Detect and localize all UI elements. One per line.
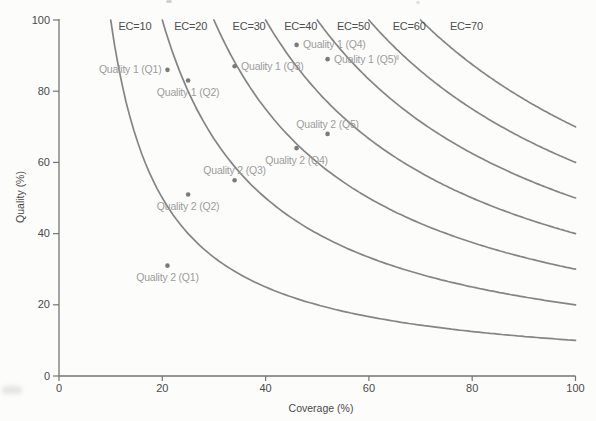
data-point — [165, 68, 170, 73]
ec-curve — [369, 20, 576, 162]
data-point-label: Quality 1 (Q2) — [157, 86, 220, 98]
ec-curve-label: EC=40 — [284, 20, 317, 32]
y-tick-label: 100 — [32, 14, 50, 26]
data-point-label: Quality 2 (Q5) — [296, 118, 359, 130]
y-tick-label: 80 — [38, 85, 50, 97]
ec-curve-label: EC=20 — [174, 20, 207, 32]
data-point-label: Quality 2 (Q4) — [265, 154, 328, 166]
data-point — [325, 132, 330, 137]
ec-curve-labels: EC=10EC=20EC=30EC=40EC=50EC=60EC=70 — [118, 20, 483, 32]
data-point — [186, 192, 191, 197]
x-tick-label: 20 — [156, 382, 168, 394]
data-point — [165, 263, 170, 268]
iso-curves — [111, 20, 576, 340]
ec-curve-label: EC=30 — [233, 20, 266, 32]
data-point — [232, 64, 237, 69]
ec-curve — [111, 20, 576, 340]
ec-curve-label: EC=70 — [450, 20, 483, 32]
data-point-label: Quality 1 (Q1) — [99, 63, 162, 75]
y-tick-labels: 020406080100 — [32, 14, 50, 382]
data-point — [186, 78, 191, 83]
y-tick-label: 60 — [38, 156, 50, 168]
scanned-chart-page: EC=10EC=20EC=30EC=40EC=50EC=60EC=70 0204… — [0, 0, 596, 421]
x-tick-label: 60 — [363, 382, 375, 394]
data-point-label: Quality 2 (Q1) — [136, 271, 199, 283]
data-point — [294, 43, 299, 48]
y-axis-title: Quality (%) — [14, 171, 26, 223]
x-tick-labels: 020406080100 — [56, 382, 585, 394]
data-point-label: Quality 2 (Q3) — [203, 164, 266, 176]
x-tick-label: 0 — [56, 382, 62, 394]
ec-curve — [421, 20, 576, 127]
data-point-label: Quality 2 (Q2) — [157, 200, 220, 212]
data-point — [325, 57, 330, 62]
data-point — [232, 178, 237, 183]
x-tick-label: 100 — [566, 382, 584, 394]
data-point — [294, 146, 299, 151]
data-point-label: Quality 1 (Q3) — [241, 60, 304, 72]
x-tick-label: 40 — [259, 382, 271, 394]
x-axis-title: Coverage (%) — [289, 402, 354, 414]
ec-curve-label: EC=50 — [337, 20, 370, 32]
y-tick-label: 20 — [38, 298, 50, 310]
ec-curve-label: EC=10 — [118, 20, 151, 32]
ec-curve-label: EC=60 — [393, 20, 426, 32]
x-tick-label: 80 — [466, 382, 478, 394]
data-point-label: Quality 1 (Q5) — [334, 53, 397, 65]
data-point-label: Quality 1 (Q4) — [303, 38, 366, 50]
y-tick-label: 0 — [44, 370, 50, 382]
coverage-quality-chart: EC=10EC=20EC=30EC=40EC=50EC=60EC=70 0204… — [0, 0, 596, 421]
y-tick-label: 40 — [38, 227, 50, 239]
